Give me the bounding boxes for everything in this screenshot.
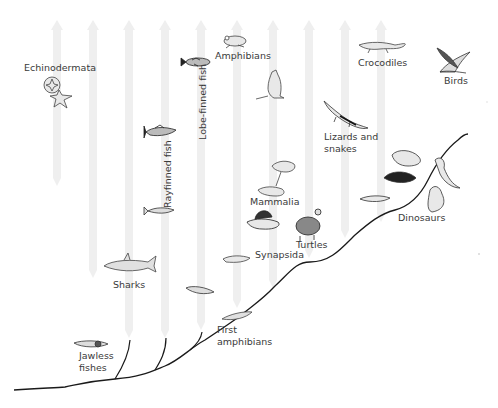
stray-dot xyxy=(478,253,480,255)
label-jawless-fishes-line1: Jawless xyxy=(79,350,114,362)
background-arrows xyxy=(51,20,387,338)
label-dinosaurs: Dinosaurs xyxy=(398,212,445,224)
label-birds: Birds xyxy=(444,75,468,87)
echinodermata-icon xyxy=(44,77,72,108)
arrow-6 xyxy=(231,20,243,308)
label-crocodiles: Crocodiles xyxy=(358,57,407,69)
label-synapsida: Synapsida xyxy=(255,249,304,261)
label-rayfinned-fish: Rayfinned fish xyxy=(162,140,174,208)
arrow-9 xyxy=(339,20,351,238)
branch-lobefinned xyxy=(190,332,202,350)
label-lizards-and-snakes-line2: snakes xyxy=(324,143,357,155)
label-lizards-and-snakes-line1: Lizards and xyxy=(324,131,378,143)
bird-icon xyxy=(437,48,470,73)
branch-rayfinned xyxy=(155,338,166,370)
stray-dot xyxy=(486,101,488,103)
arrow-10 xyxy=(375,20,387,222)
label-echinodermata: Echinodermata xyxy=(24,62,96,74)
label-mammalia: Mammalia xyxy=(250,196,299,208)
arrow-2 xyxy=(87,20,99,278)
early-fish-icon xyxy=(186,287,214,294)
evolution-diagram: Echinodermata Amphibians Lobe-finned fis… xyxy=(0,0,498,408)
label-first-amphibians-line2: amphibians xyxy=(217,336,272,348)
label-first-amphibians-line1: First xyxy=(217,324,237,336)
label-lobe-finned-fish: Lobe-finned fish xyxy=(197,64,209,140)
small-fish-icon xyxy=(144,207,174,215)
label-sharks: Sharks xyxy=(113,279,145,291)
first-amphibian-icon xyxy=(222,312,252,320)
label-amphibians: Amphibians xyxy=(215,50,271,62)
frog-icon xyxy=(224,36,246,48)
jawless-fish-icon xyxy=(74,341,108,347)
synapsid-icon xyxy=(223,256,250,262)
label-jawless-fishes-line2: fishes xyxy=(79,362,107,374)
branch-sharks xyxy=(115,340,130,379)
rayfinned-fish-icon xyxy=(144,125,176,138)
